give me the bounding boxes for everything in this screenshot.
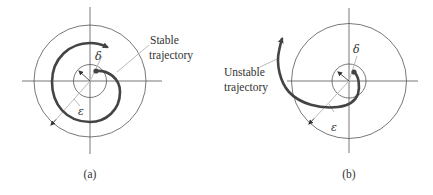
epsilon-radius-arrowhead <box>309 119 314 125</box>
initial-state-dot <box>351 69 356 74</box>
delta-radius-arrow <box>338 72 349 81</box>
epsilon-radius-arrow <box>310 81 349 123</box>
unstable-trajectory <box>278 39 359 107</box>
delta-label: δ <box>95 50 102 63</box>
lyapunov-stability-figure: δ ε Stable trajectory (a) δ ε Unstable t… <box>0 0 433 195</box>
delta-radius-arrow <box>79 71 90 81</box>
delta-label: δ <box>353 43 360 56</box>
panel-b: δ ε Unstable trajectory (b) <box>224 8 418 181</box>
caption-b: (b) <box>342 168 356 181</box>
epsilon-label: ε <box>78 105 84 118</box>
trajectory-label-line1: Stable <box>150 34 179 46</box>
trajectory-label-line2: trajectory <box>149 49 193 62</box>
initial-state-dot <box>93 68 98 73</box>
trajectory-label-line2: trajectory <box>224 81 268 94</box>
caption-a: (a) <box>84 168 97 181</box>
epsilon-label: ε <box>331 121 337 134</box>
panel-a: δ ε Stable trajectory (a) <box>22 7 193 181</box>
delta-radius-line <box>349 56 357 81</box>
trajectory-label-line1: Unstable <box>224 66 265 78</box>
stable-trajectory <box>52 43 120 122</box>
